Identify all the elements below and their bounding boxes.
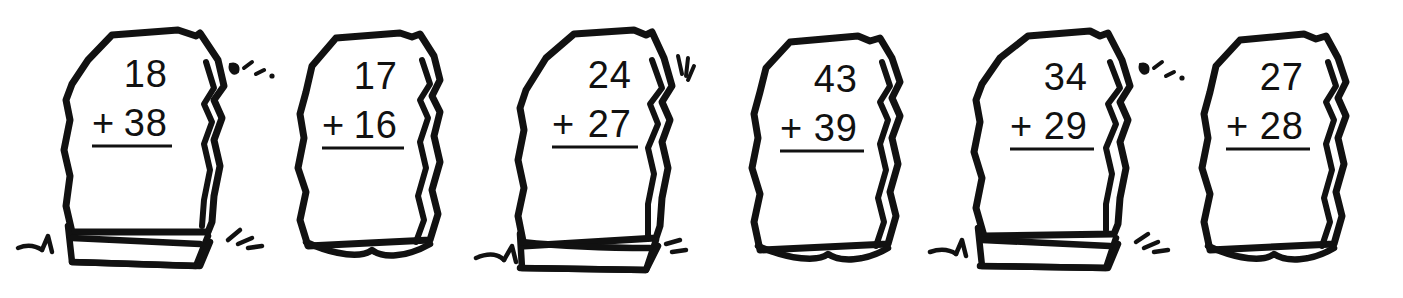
stone-3[interactable]: 24 + 27 — [476, 30, 694, 270]
stone-6-plus-sign: + — [1226, 105, 1249, 147]
stone-3-grass-right — [666, 240, 686, 252]
stone-3-sparkle — [678, 56, 694, 80]
stone-1-bottom-addend: 38 — [124, 102, 168, 144]
stone-5-sparkle — [1140, 62, 1185, 81]
stone-2-plus-sign: + — [322, 104, 345, 146]
stone-4[interactable]: 43 + 39 — [752, 36, 900, 259]
stone-5-grass-right — [1136, 234, 1168, 252]
stone-1[interactable]: 18 + 38 — [18, 30, 275, 266]
stone-4-plus-sign: + — [780, 107, 803, 149]
worksheet-canvas: 18 + 38 17 + 16 — [0, 0, 1403, 298]
stone-5-top-addend: 34 — [1044, 56, 1088, 98]
stone-5-bottom-addend: 29 — [1044, 105, 1088, 147]
stone-4-top-addend: 43 — [814, 58, 858, 100]
stone-1-plus-sign: + — [92, 102, 115, 144]
stone-1-grass-left — [18, 236, 52, 252]
stone-2-bottom-addend: 16 — [354, 104, 398, 146]
stone-2[interactable]: 17 + 16 — [298, 33, 440, 255]
stone-1-sparkle — [230, 62, 275, 79]
stone-6-top-addend: 27 — [1260, 56, 1304, 98]
stone-5-plus-sign: + — [1010, 105, 1033, 147]
stones-illustration: 18 + 38 17 + 16 — [0, 0, 1403, 298]
stone-1-grass-right — [228, 230, 262, 248]
stone-3-top-addend: 24 — [588, 54, 632, 96]
stone-3-grass-left — [476, 246, 516, 262]
stone-3-bottom-addend: 27 — [588, 103, 632, 145]
stone-3-plus-sign: + — [552, 103, 575, 145]
stone-5[interactable]: 34 + 29 — [930, 31, 1185, 268]
stone-1-top-addend: 18 — [124, 53, 168, 95]
stone-2-top-addend: 17 — [354, 55, 398, 97]
stone-5-grass-left — [930, 240, 966, 256]
stone-6-bottom-addend: 28 — [1260, 105, 1304, 147]
stone-4-bottom-addend: 39 — [814, 107, 858, 149]
stone-6[interactable]: 27 + 28 — [1202, 34, 1346, 259]
